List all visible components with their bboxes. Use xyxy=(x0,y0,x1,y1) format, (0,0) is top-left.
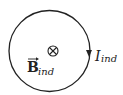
current-loop xyxy=(9,11,90,92)
field-into-page-icon xyxy=(48,46,58,56)
svg-text:ind: ind xyxy=(38,66,54,77)
svg-text:ind: ind xyxy=(101,53,117,64)
svg-text:I: I xyxy=(94,48,101,64)
induced-current-diagram: B ind I ind xyxy=(0,0,123,95)
current-label: I ind xyxy=(94,48,117,64)
field-label: B ind xyxy=(27,57,54,77)
current-direction-arrow-icon xyxy=(86,50,92,57)
